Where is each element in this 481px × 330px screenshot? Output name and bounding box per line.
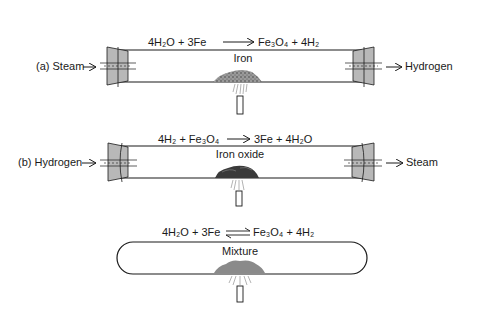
equation-a-rhs: Fe₃O₄ + 4H₂: [258, 36, 319, 48]
equation-c-lhs: 4H₂O + 3Fe: [162, 226, 220, 238]
equation-c-rhs: Fe₃O₄ + 4H₂: [253, 226, 314, 238]
equilibrium-arrow-icon: [226, 228, 250, 238]
iron-oxide-pile: [215, 166, 259, 178]
panel-a: 4H₂O + 3Fe Fe₃O₄ + 4H₂ Iron (a) Steam Hy…: [36, 36, 453, 114]
flame-icon: [233, 84, 247, 94]
tube-label-a: Iron: [234, 52, 253, 64]
flame-icon: [231, 180, 244, 190]
inlet-label-b: (b) Hydrogen: [18, 156, 82, 168]
iron-pile: [213, 70, 262, 82]
inlet-label-a: (a) Steam: [36, 60, 84, 72]
tube-label-b: Iron oxide: [216, 148, 264, 160]
iron-steam-diagram: 4H₂O + 3Fe Fe₃O₄ + 4H₂ Iron (a) Steam Hy…: [0, 0, 481, 330]
equation-a-lhs: 4H₂O + 3Fe: [148, 36, 206, 48]
flame-icon: [229, 276, 251, 285]
burner-a: [237, 96, 243, 114]
outlet-label-a: Hydrogen: [405, 60, 453, 72]
burner-b: [236, 191, 242, 206]
stopper-left-b: [108, 143, 128, 181]
equation-b-lhs: 4H₂ + Fe₃O₄: [158, 133, 220, 145]
panel-b: 4H₂ + Fe₃O₄ 3Fe + 4H₂O Iron oxide (b) Hy…: [18, 133, 438, 206]
burner-c: [237, 286, 243, 302]
outlet-label-b: Steam: [406, 156, 438, 168]
equation-b-rhs: 3Fe + 4H₂O: [254, 133, 313, 145]
panel-c: 4H₂O + 3Fe Fe₃O₄ + 4H₂ Mixture: [117, 226, 367, 302]
tube-label-c: Mixture: [222, 245, 258, 257]
